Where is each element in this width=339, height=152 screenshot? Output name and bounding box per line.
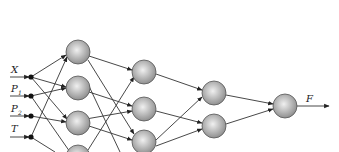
- layer1-nodes: [66, 40, 90, 152]
- edges-layer3-output: [226, 95, 273, 124]
- edges-layer2-layer3: [156, 74, 202, 146]
- layer2-nodes: [132, 60, 156, 152]
- output-node: [273, 94, 297, 118]
- neuron-node: [273, 94, 297, 118]
- neuron-node: [66, 111, 90, 135]
- input-label-t: T: [11, 123, 19, 134]
- input-junctions: [28, 74, 33, 139]
- neuron-node: [202, 81, 226, 105]
- neuron-node: [202, 114, 226, 138]
- neuron-node: [132, 60, 156, 84]
- output-label-f: F: [305, 93, 314, 104]
- neuron-node: [66, 145, 90, 152]
- svg-text:2: 2: [17, 109, 22, 116]
- junction-dot: [28, 134, 33, 139]
- neural-network-diagram: X P 1 P 2 T F: [0, 0, 339, 152]
- junction-dot: [28, 74, 33, 79]
- neuron-node: [66, 76, 90, 100]
- neuron-node: [132, 97, 156, 121]
- input-label-p1: P: [10, 83, 18, 94]
- input-labels: X P 1 P 2 T: [10, 64, 22, 134]
- input-label-p2: P: [10, 103, 18, 114]
- junction-dot: [28, 93, 33, 98]
- svg-text:1: 1: [18, 89, 22, 96]
- layer3-nodes: [202, 81, 226, 138]
- neuron-node: [66, 40, 90, 64]
- edges-layer1-layer2: [86, 56, 134, 152]
- neuron-node: [132, 130, 156, 152]
- edges-input-layer1: [31, 55, 70, 152]
- junction-dot: [28, 113, 33, 118]
- input-label-x: X: [10, 64, 19, 75]
